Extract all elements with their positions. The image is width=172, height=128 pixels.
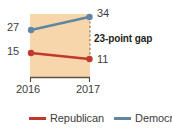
republican-point-2017	[86, 56, 92, 62]
legend-item-republican: Republican	[29, 112, 104, 124]
democrat-point-2016	[28, 27, 34, 33]
legend-item-democrat: Democrat	[114, 112, 172, 124]
x-axis-label-2017: 2017	[76, 83, 100, 95]
democrat-value-label-2016: 27	[7, 22, 19, 33]
x-axis-label-2016: 2016	[16, 83, 40, 95]
democrat-value-label-2017: 34	[97, 8, 109, 19]
republican-value-label-2017: 11	[97, 54, 108, 65]
legend-swatch-democrat-icon	[114, 117, 131, 120]
legend-label-republican: Republican	[50, 112, 104, 124]
legend-label-democrat: Democrat	[135, 112, 172, 124]
gap-annotation-label: 23-point gap	[94, 33, 152, 44]
chart-legend: Republican Democrat	[0, 108, 172, 128]
democrat-point-2017	[86, 14, 92, 20]
republican-point-2016	[28, 50, 34, 56]
republican-value-label-2016: 15	[7, 46, 19, 57]
slope-chart: 27 34 15 11 23-point gap 2016 2017 Repub…	[0, 0, 172, 128]
legend-swatch-republican-icon	[29, 117, 46, 120]
plot-area: 27 34 15 11 23-point gap 2016 2017	[0, 0, 172, 100]
